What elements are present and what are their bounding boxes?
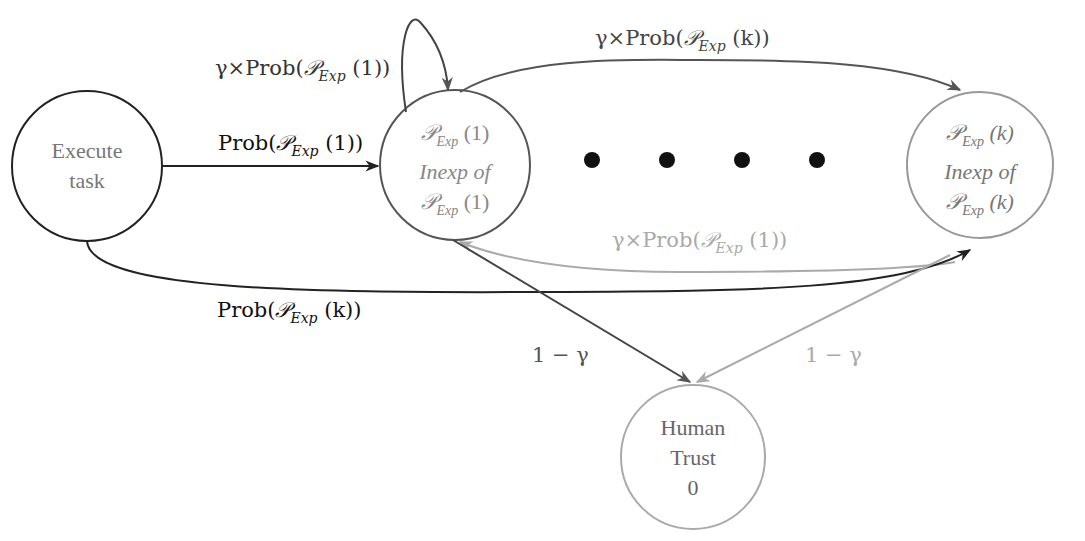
node-subscript: Exp xyxy=(962,134,984,149)
label-subscript: Exp xyxy=(291,143,318,159)
label-subscript: Exp xyxy=(699,38,726,54)
node-line: 𝒫Exp (k) xyxy=(905,187,1055,226)
label-subscript: Exp xyxy=(290,310,317,326)
node-line: Execute xyxy=(12,136,162,166)
label-text: (1)) xyxy=(319,131,364,155)
node-p-exp-k-label: 𝒫Exp (k) Inexp of 𝒫Exp (k) xyxy=(905,118,1055,226)
label-text: γ×Prob( xyxy=(215,56,304,80)
node-line: Trust xyxy=(618,443,768,473)
label-p1-to-trust: 1 − γ xyxy=(532,345,589,366)
node-line: 𝒫Exp (1) xyxy=(380,187,530,226)
node-symbol: 𝒫 xyxy=(421,120,437,145)
ellipsis-dot xyxy=(809,152,825,168)
label-text: (1)) xyxy=(346,56,391,80)
label-symbol: 𝒫 xyxy=(276,131,291,155)
label-execute-to-pk: Prob(𝒫Exp (k)) xyxy=(217,300,362,325)
label-text: (k)) xyxy=(318,298,362,322)
label-subscript: Exp xyxy=(716,240,743,256)
node-symbol: 𝒫 xyxy=(946,189,962,214)
label-text: (1)) xyxy=(743,228,788,252)
ellipsis-dot xyxy=(734,152,750,168)
ellipsis-dot xyxy=(659,152,675,168)
node-line: 𝒫Exp (1) xyxy=(380,118,530,157)
label-symbol: 𝒫 xyxy=(684,26,699,50)
label-text: Prob( xyxy=(217,298,275,322)
node-subscript: Exp xyxy=(437,203,459,218)
label-execute-to-p1: Prob(𝒫Exp (1)) xyxy=(218,133,363,158)
node-p-exp-1-label: 𝒫Exp (1) Inexp of 𝒫Exp (1) xyxy=(380,118,530,226)
state-diagram: γ×Prob(𝒫Exp (1)) Prob(𝒫Exp (1)) γ×Prob(𝒫… xyxy=(0,0,1085,541)
node-line: Inexp of xyxy=(380,157,530,187)
label-p1-to-pk: γ×Prob(𝒫Exp (k)) xyxy=(595,28,770,53)
label-symbol: 𝒫 xyxy=(701,228,716,252)
label-symbol: 𝒫 xyxy=(275,298,290,322)
node-arg: (1) xyxy=(458,189,489,214)
ellipsis-dot xyxy=(584,152,600,168)
node-line: 𝒫Exp (k) xyxy=(905,118,1055,157)
label-self-loop: γ×Prob(𝒫Exp (1)) xyxy=(215,58,390,83)
node-line: task xyxy=(12,166,162,196)
node-execute-task-label: Execute task xyxy=(12,136,162,196)
label-subscript: Exp xyxy=(319,68,346,84)
label-symbol: 𝒫 xyxy=(304,56,319,80)
node-arg: (k) xyxy=(984,120,1014,145)
label-pk-to-p1: γ×Prob(𝒫Exp (1)) xyxy=(612,230,787,255)
label-text: γ×Prob( xyxy=(595,26,684,50)
node-subscript: Exp xyxy=(437,134,459,149)
node-line: Inexp of xyxy=(905,157,1055,187)
edge-p1-to-pk xyxy=(460,60,960,92)
node-arg: (k) xyxy=(984,189,1014,214)
label-text: Prob( xyxy=(218,131,276,155)
node-subscript: Exp xyxy=(962,203,984,218)
diagram-graphics xyxy=(0,0,1085,541)
label-text: γ×Prob( xyxy=(612,228,701,252)
node-arg: (1) xyxy=(458,120,489,145)
node-symbol: 𝒫 xyxy=(946,120,962,145)
node-human-trust-label: Human Trust 0 xyxy=(618,413,768,503)
node-line: Human xyxy=(618,413,768,443)
label-pk-to-trust: 1 − γ xyxy=(805,345,862,366)
node-line: 0 xyxy=(618,473,768,503)
edge-p1-self-loop xyxy=(402,19,448,112)
node-symbol: 𝒫 xyxy=(421,189,437,214)
label-text: (k)) xyxy=(726,26,770,50)
